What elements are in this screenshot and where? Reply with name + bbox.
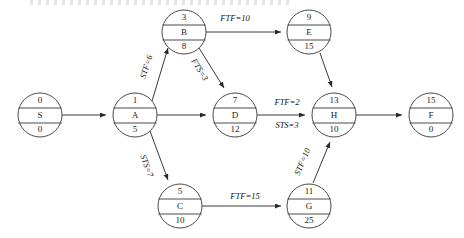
node-F-label: F: [428, 110, 433, 120]
edge-label-G-H: STF=10: [292, 146, 313, 177]
node-G-early-start: 11: [305, 186, 314, 196]
edge-label-B-D: FTS=3: [189, 56, 211, 83]
node-S-label: S: [37, 110, 42, 120]
node-D[interactable]: 7 D 12: [213, 93, 257, 137]
node-C[interactable]: 5 C 10: [158, 184, 202, 228]
node-G[interactable]: 11 G 25: [287, 184, 331, 228]
node-E[interactable]: 9 E 15: [287, 10, 331, 54]
node-F[interactable]: 15 F 0: [409, 93, 453, 137]
network-diagram: STF=6 FTS=3 STS=7 FTF=10 FTF=2 STS=3 FTF…: [0, 0, 464, 238]
node-B-label: B: [181, 27, 187, 37]
node-E-duration: 15: [305, 41, 315, 51]
node-F-duration: 0: [429, 124, 434, 134]
edge-label-B-E: FTF=10: [219, 13, 250, 23]
node-A-duration: 5: [133, 124, 138, 134]
node-E-label: E: [306, 27, 312, 37]
edge-label-A-C: STS=7: [138, 153, 156, 179]
node-S[interactable]: 0 S 0: [18, 93, 62, 137]
node-H-label: H: [331, 110, 338, 120]
node-C-early-start: 5: [178, 186, 183, 196]
edge-E-H: [320, 53, 332, 87]
node-G-label: G: [306, 201, 313, 211]
node-E-early-start: 9: [307, 12, 312, 22]
node-G-duration: 25: [305, 215, 315, 225]
edge-A-B: [152, 48, 168, 101]
node-B-early-start: 3: [182, 12, 187, 22]
node-H-duration: 10: [330, 124, 340, 134]
node-D-early-start: 7: [233, 95, 238, 105]
edge-label-D-H-ftf: FTF=2: [273, 97, 300, 107]
node-B[interactable]: 3 B 8: [162, 10, 206, 54]
edge-label-C-G: FTF=15: [229, 191, 259, 201]
network-diagram-canvas: STF=6 FTS=3 STS=7 FTF=10 FTF=2 STS=3 FTF…: [0, 0, 464, 238]
node-B-duration: 8: [182, 41, 187, 51]
node-C-label: C: [177, 201, 183, 211]
edge-G-H: [313, 142, 330, 183]
node-C-duration: 10: [176, 215, 186, 225]
node-H[interactable]: 13 H 10: [312, 93, 356, 137]
node-A-label: A: [132, 110, 139, 120]
node-A[interactable]: 1 A 5: [113, 93, 157, 137]
node-S-duration: 0: [38, 124, 43, 134]
edge-label-A-B: STF=6: [138, 53, 155, 80]
node-D-duration: 12: [231, 124, 240, 134]
node-S-early-start: 0: [38, 95, 43, 105]
node-H-early-start: 13: [330, 95, 340, 105]
node-D-label: D: [232, 110, 239, 120]
edge-label-D-H-sts: STS=3: [275, 120, 298, 130]
node-F-early-start: 15: [427, 95, 437, 105]
node-A-early-start: 1: [133, 95, 138, 105]
